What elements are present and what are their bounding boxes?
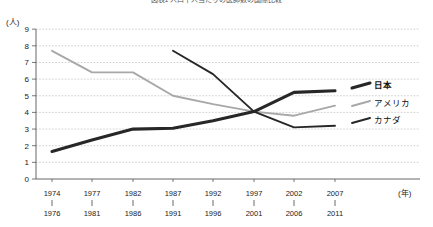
series-line-america [52,51,335,116]
x-tick-label-start: 1992 [205,189,222,198]
chart-container: 図表1 人口千人当たりの医師数の国際比較 0123456789(人)(年)197… [0,0,433,227]
x-tick-label-start: 1974 [44,189,61,198]
x-tick-label-end: 2001 [246,209,263,218]
x-tick-label-end: 2011 [327,209,343,218]
line-chart-plot: 0123456789(人)(年)197419761977198119821986… [0,0,433,227]
x-tick-label-start: 1977 [84,189,101,198]
legend: 日本アメリカカナダ [352,80,410,125]
gridlines: 0123456789 [25,25,420,184]
x-tick-label-start: 1987 [165,189,182,198]
y-tick-label: 4 [25,108,30,117]
legend-swatch-canada [352,118,370,123]
x-tick-label-start: 1997 [246,189,263,198]
legend-label-japan: 日本 [374,80,392,90]
y-tick-label: 2 [25,142,30,151]
x-tick-label-end: 1976 [44,209,61,218]
x-tick-label-start: 2007 [327,189,344,198]
x-tick-label-end: 1996 [205,209,222,218]
legend-swatch-america [352,101,370,106]
y-tick-label: 7 [25,58,30,67]
x-tick-label-start: 2002 [286,189,303,198]
x-tick-label-start: 1982 [125,189,142,198]
x-tick-label-end: 1986 [125,209,142,218]
x-tick-label-end: 1991 [165,209,182,218]
y-tick-label: 0 [25,175,30,184]
y-tick-label: 6 [25,75,30,84]
y-axis-unit-label: (人) [6,18,20,27]
y-tick-label: 5 [25,92,30,101]
y-tick-label: 1 [25,158,30,167]
y-tick-label: 3 [25,125,30,134]
x-axis-labels: 1974197619771981198219861987199119921996… [44,179,344,218]
x-axis-unit-label: (年) [398,188,412,198]
x-tick-label-end: 1981 [84,209,101,218]
y-tick-label: 8 [25,42,30,51]
x-tick-label-end: 2006 [286,209,303,218]
legend-swatch-japan [352,83,370,88]
y-tick-label: 9 [25,25,30,34]
legend-label-canada: カナダ [374,115,401,125]
legend-label-america: アメリカ [374,98,410,108]
